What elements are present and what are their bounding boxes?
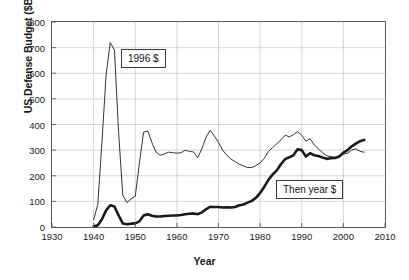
y-tick-label: 500: [0, 93, 45, 104]
y-tick-label: 400: [0, 119, 45, 130]
y-tick-label: 600: [0, 68, 45, 79]
y-tick-label: 700: [0, 42, 45, 53]
chart-figure: US Defense Budget ($B) 01002003004005006…: [0, 0, 409, 280]
y-tick-label: 200: [0, 170, 45, 181]
x-tick-label: 2010: [365, 231, 405, 242]
annotation-then-year-dollars: Then year $: [276, 180, 343, 199]
y-tick-label: 300: [0, 145, 45, 156]
x-tick-label: 2000: [323, 231, 363, 242]
x-axis-title: Year: [0, 255, 409, 267]
x-tick-label: 1950: [115, 231, 155, 242]
x-tick-label: 1990: [282, 231, 322, 242]
x-tick-label: 1940: [74, 231, 114, 242]
x-tick-label: 1960: [157, 231, 197, 242]
x-tick-label: 1980: [240, 231, 280, 242]
annotation-1996-dollars: 1996 $: [121, 49, 166, 68]
y-tick-label: 100: [0, 196, 45, 207]
x-tick-label: 1930: [32, 231, 72, 242]
y-tick-label: 800: [0, 17, 45, 28]
x-tick-label: 1970: [199, 231, 239, 242]
